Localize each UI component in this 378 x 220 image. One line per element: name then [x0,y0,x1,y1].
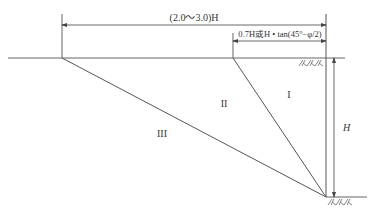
zone-II-label: II [221,98,228,109]
zone-III-label: III [157,128,167,139]
soil-hatch-top-icon [299,60,323,66]
slope-zoning-diagram: (2.0～3.0)H 0.7H或H • tan(45°−φ/2) H I II … [0,0,378,220]
height-label: H [342,122,351,133]
boundary-zone-I-II [233,58,326,197]
soil-hatch-bottom-icon [328,199,352,205]
inner-width-label: 0.7H或H • tan(45°−φ/2) [238,29,322,39]
total-width-label: (2.0～3.0)H [170,12,219,24]
zone-I-label: I [287,89,290,100]
boundary-zone-II-III [62,58,326,197]
